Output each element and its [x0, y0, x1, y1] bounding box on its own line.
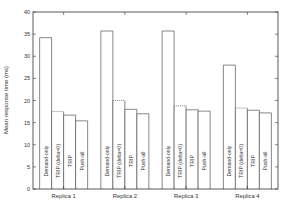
bar: TRIP (delta=0) [52, 112, 64, 189]
bars-layer: Demand-onlyTRIP (delta=0)TRIPPush-allDem… [40, 31, 272, 189]
y-tick-label: 15 [24, 120, 30, 126]
bar: TRIP (delta=0) [174, 106, 186, 189]
y-tick-label: 35 [24, 31, 30, 37]
bar-series-label: TRIP (delta=0) [116, 144, 122, 178]
y-tick-label: 20 [24, 98, 30, 104]
y-axis-label: Mean response time (ms) [3, 66, 9, 134]
y-tick-label: 10 [24, 142, 30, 148]
bar-series-label: Push-all [262, 152, 268, 171]
bar: Push-all [76, 121, 88, 189]
bar: TRIP [186, 110, 198, 189]
bar-series-label: TRIP (delta=0) [238, 144, 244, 178]
bar-series-label: TRIP (delta=0) [55, 144, 61, 178]
bar-chart: Demand-onlyTRIP (delta=0)TRIPPush-allDem… [0, 0, 295, 208]
bar: TRIP (delta=0) [113, 101, 125, 190]
x-category-label: Replica 1 [52, 193, 76, 199]
bar: TRIP [125, 109, 137, 189]
bar-series-label: TRIP [128, 155, 134, 167]
bar-series-label: Demand-only [43, 145, 49, 176]
x-category-label: Replica 2 [113, 193, 137, 199]
bar: Demand-only [101, 31, 113, 189]
bar: Demand-only [223, 65, 235, 189]
bar-series-label: TRIP [250, 155, 256, 167]
x-category-label: Replica 4 [235, 193, 260, 199]
bar-series-label: Demand-only [226, 145, 232, 176]
y-tick-label: 25 [24, 75, 30, 81]
y-tick-label: 5 [27, 164, 30, 170]
bar-series-label: TRIP (delta=0) [177, 144, 183, 178]
bar-series-label: Push-all [79, 152, 85, 171]
x-category-label: Replica 3 [174, 193, 198, 199]
bar: Push-all [137, 114, 149, 189]
bar-series-label: TRIP [189, 155, 195, 167]
bar: TRIP [64, 115, 76, 189]
bar-series-label: Push-all [201, 152, 207, 171]
bar-series-label: Demand-only [165, 145, 171, 176]
bar: Push-all [198, 111, 210, 189]
bar: Demand-only [162, 31, 174, 189]
bar: TRIP [247, 110, 259, 189]
y-tick-label: 30 [24, 53, 30, 59]
bar-series-label: Demand-only [104, 145, 110, 176]
bar-series-label: TRIP [67, 155, 73, 167]
bar: Push-all [259, 113, 271, 189]
bar-series-label: Push-all [140, 152, 146, 171]
bar: Demand-only [40, 38, 52, 189]
y-tick-label: 0 [27, 186, 30, 192]
y-tick-label: 40 [24, 9, 30, 15]
bar: TRIP (delta=0) [235, 108, 247, 189]
